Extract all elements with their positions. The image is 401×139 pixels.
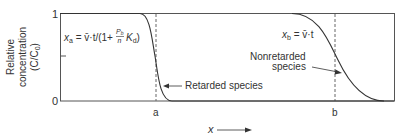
svg-text:(C/C0): (C/C0) <box>29 43 41 71</box>
equation-b: xb = v̄·t <box>281 29 314 41</box>
x-axis-label: x <box>207 123 214 135</box>
svg-text:Relative: Relative <box>5 39 16 76</box>
arrow-right-icon <box>335 70 343 75</box>
x-marker-a: a <box>153 107 159 118</box>
y-axis-label: Relative concentration (C/C0) <box>5 27 41 87</box>
arrow-left-icon <box>163 84 169 89</box>
equation-a-kd: Kd) <box>126 32 140 44</box>
x-marker-b: b <box>332 107 338 118</box>
equation-a-fraction-den: n <box>118 37 122 44</box>
y-tick-0: 0 <box>52 95 58 107</box>
svg-text:concentration: concentration <box>17 27 28 87</box>
nonretarded-curve <box>292 14 384 102</box>
y-tick-1: 1 <box>52 8 58 20</box>
equation-a-fraction-num: Pb <box>116 28 124 36</box>
nonretarded-label-line2: species <box>272 61 306 72</box>
x-axis-arrow-icon <box>245 128 252 133</box>
nonretarded-arrow-line <box>312 67 338 72</box>
equation-a: xa = v̄·t/(1+ <box>63 32 113 44</box>
breakthrough-diagram: 1 0 Relative concentration (C/C0) xa = v… <box>0 0 401 139</box>
retarded-species-label: Retarded species <box>185 80 263 91</box>
